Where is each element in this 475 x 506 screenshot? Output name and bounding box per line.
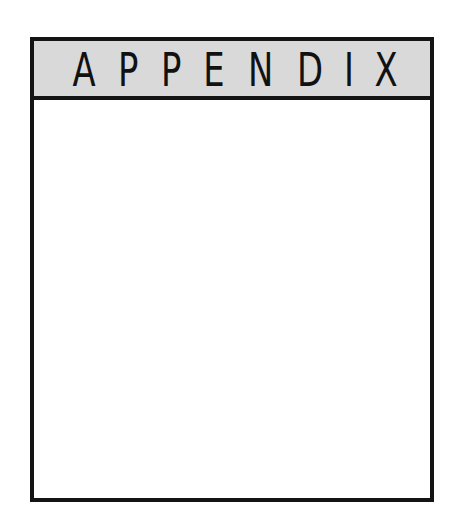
appendix-header: A P P E N D I X xyxy=(34,41,430,100)
header-letter: N xyxy=(247,46,272,93)
header-letter: D xyxy=(297,46,323,93)
header-letter: A xyxy=(73,46,96,93)
appendix-body xyxy=(34,104,430,498)
header-letter: P xyxy=(160,46,180,93)
header-letter: E xyxy=(203,46,224,93)
header-letter: P xyxy=(118,46,138,93)
header-letter: X xyxy=(374,46,397,93)
header-letter: I xyxy=(344,46,354,93)
appendix-frame: A P P E N D I X xyxy=(30,37,434,502)
